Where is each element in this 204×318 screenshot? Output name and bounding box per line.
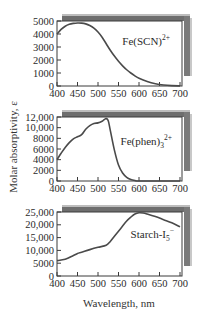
y-tick-label: 10,000 (25, 122, 54, 133)
y-tick-label: 25,000 (25, 207, 54, 218)
y-axis-label: Molar absorptivity, ε (7, 101, 19, 193)
y-tick-label: 4000 (33, 154, 54, 165)
x-tick-label: 600 (131, 88, 147, 99)
y-tick-label: 12,000 (25, 112, 54, 123)
x-tick-label: 700 (172, 88, 188, 99)
y-tick-label: 15,000 (25, 232, 54, 243)
x-tick-label: 600 (131, 278, 147, 289)
x-tick-label: 500 (90, 88, 106, 99)
x-tick-label: 700 (172, 278, 188, 289)
panel-fe-phen: 0200040006000800010,00012,00040045050055… (25, 110, 192, 194)
x-tick-label: 600 (131, 183, 147, 194)
spectra-panels: 0100020003000400050004004505005506006507… (0, 0, 204, 318)
x-tick-label: 700 (172, 183, 188, 194)
y-tick-label: 5000 (33, 16, 54, 27)
y-tick-label: 10,000 (25, 245, 54, 256)
y-tick-label: 20,000 (25, 219, 54, 230)
x-tick-label: 500 (90, 183, 106, 194)
panel-fe-scn: 0100020003000400050004004505005506006507… (33, 14, 192, 99)
plot-frame (57, 21, 182, 86)
x-tick-label: 550 (111, 278, 127, 289)
y-tick-label: 2000 (33, 55, 54, 66)
absorption-spectra-figure: 0100020003000400050004004505005506006507… (0, 0, 204, 318)
x-axis-label: Wavelength, nm (83, 297, 155, 309)
x-tick-label: 450 (70, 278, 86, 289)
y-tick-label: 2000 (33, 165, 54, 176)
x-tick-label: 400 (49, 88, 65, 99)
x-tick-label: 450 (70, 183, 86, 194)
x-tick-label: 650 (152, 88, 168, 99)
y-tick-label: 1000 (33, 68, 54, 79)
y-tick-label: 6000 (33, 144, 54, 155)
x-tick-label: 500 (90, 278, 106, 289)
y-tick-label: 5000 (33, 258, 54, 269)
x-tick-label: 650 (152, 278, 168, 289)
x-tick-label: 550 (111, 88, 127, 99)
panel-starch-i5: 0500010,00015,00020,00025,00040045050055… (25, 205, 192, 289)
x-tick-label: 400 (49, 183, 65, 194)
x-tick-label: 550 (111, 183, 127, 194)
y-tick-label: 4000 (33, 29, 54, 40)
x-tick-label: 450 (70, 88, 86, 99)
y-tick-label: 8000 (33, 133, 54, 144)
plot-frame (57, 212, 182, 276)
y-tick-label: 3000 (33, 42, 54, 53)
x-tick-label: 400 (49, 278, 65, 289)
x-tick-label: 650 (152, 183, 168, 194)
